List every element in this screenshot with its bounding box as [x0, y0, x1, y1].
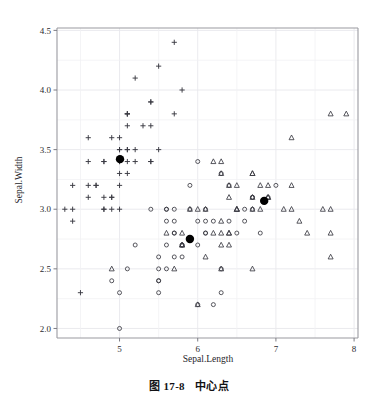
x-tick-label: 8 [352, 344, 357, 354]
point-triangle [266, 183, 271, 188]
point-plus [117, 171, 122, 176]
caption-number: 图 17-8 [149, 380, 185, 392]
axis-tick-labels: 56782.02.53.03.54.04.5 [40, 26, 357, 354]
y-tick-label: 4.0 [40, 85, 52, 95]
grid-lines [57, 28, 358, 338]
point-plus [148, 99, 153, 104]
point-triangle [211, 159, 216, 164]
point-plus [70, 219, 75, 224]
x-tick-label: 5 [117, 344, 122, 354]
point-plus [86, 135, 91, 140]
point-triangle [297, 218, 302, 223]
point-circle [243, 219, 247, 223]
point-circle [258, 231, 262, 235]
axis-ticks [54, 30, 355, 341]
y-tick-label: 3.5 [40, 145, 52, 155]
point-circle [211, 219, 215, 223]
point-circle [211, 303, 215, 307]
point-plus [148, 159, 153, 164]
point-plus [172, 40, 177, 45]
point-triangle [328, 230, 333, 235]
centroid-versicolor [186, 235, 194, 243]
point-plus [148, 123, 153, 128]
point-plus [125, 123, 130, 128]
point-triangle [227, 230, 232, 235]
point-plus [117, 207, 122, 212]
data-points [62, 40, 349, 331]
point-plus [156, 147, 161, 152]
point-circle [188, 183, 192, 187]
point-triangle [289, 135, 294, 140]
point-triangle [164, 230, 169, 235]
point-triangle [219, 242, 224, 247]
centroid-virginica [260, 197, 268, 205]
point-plus [117, 183, 122, 188]
point-triangle [227, 242, 232, 247]
point-plus [101, 159, 106, 164]
scatter-plot: 56782.02.53.03.54.04.5 Sepal.Length Sepa… [0, 0, 378, 401]
point-circle [172, 231, 176, 235]
centroid-setosa [116, 155, 124, 163]
point-plus [140, 123, 145, 128]
point-triangle [211, 230, 216, 235]
point-triangle [219, 218, 224, 223]
point-plus [62, 207, 67, 212]
point-triangle [258, 183, 263, 188]
point-plus [117, 147, 122, 152]
point-triangle [305, 230, 310, 235]
point-circle [172, 219, 176, 223]
point-plus [133, 147, 138, 152]
point-plus [101, 195, 106, 200]
point-circle [204, 219, 208, 223]
x-tick-label: 6 [195, 344, 200, 354]
point-plus [101, 207, 106, 212]
point-triangle [328, 254, 333, 259]
point-plus [86, 195, 91, 200]
point-circle [164, 243, 168, 247]
figure-caption: 图 17-8中心点 [0, 377, 378, 393]
point-plus [133, 75, 138, 80]
point-plus [70, 183, 75, 188]
point-plus [125, 171, 130, 176]
point-plus [125, 159, 130, 164]
x-axis-label: Sepal.Length [183, 354, 234, 364]
point-plus [78, 290, 83, 295]
point-triangle [219, 159, 224, 164]
point-plus [125, 111, 130, 116]
cluster-centroids [116, 155, 269, 243]
x-tick-label: 7 [274, 344, 279, 354]
point-plus [133, 159, 138, 164]
y-axis-label: Sepal.Width [14, 156, 24, 203]
point-triangle [250, 171, 255, 176]
point-circle [164, 219, 168, 223]
point-plus [86, 183, 91, 188]
point-plus [125, 147, 130, 152]
point-plus [179, 87, 184, 92]
y-tick-label: 2.0 [40, 324, 52, 334]
point-plus [109, 195, 114, 200]
y-tick-label: 3.0 [40, 204, 52, 214]
y-tick-label: 4.5 [40, 26, 52, 36]
point-circle [219, 291, 223, 295]
point-plus [109, 207, 114, 212]
point-plus [86, 159, 91, 164]
point-plus [70, 207, 75, 212]
caption-text: 中心点 [195, 380, 229, 392]
point-triangle [328, 111, 333, 116]
point-plus [172, 111, 177, 116]
point-triangle [219, 230, 224, 235]
point-circle [110, 279, 114, 283]
point-circle [227, 219, 231, 223]
plot-frame [57, 28, 358, 338]
point-circle [180, 255, 184, 259]
point-circle [204, 231, 208, 235]
point-plus [156, 64, 161, 69]
point-circle [133, 243, 137, 247]
point-plus [117, 135, 122, 140]
point-plus [93, 183, 98, 188]
point-triangle [203, 254, 208, 259]
point-plus [109, 135, 114, 140]
point-triangle [227, 195, 232, 200]
point-circle [172, 255, 176, 259]
figure-container: 56782.02.53.03.54.04.5 Sepal.Length Sepa… [0, 0, 378, 401]
